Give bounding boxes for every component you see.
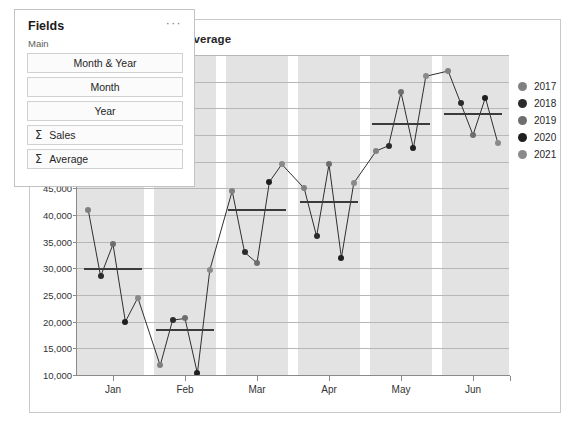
data-point[interactable] <box>470 132 476 138</box>
more-options-icon[interactable]: ··· <box>166 19 182 27</box>
sigma-aggregate-icon: Σ <box>35 152 42 166</box>
field-item-label: Year <box>94 105 115 117</box>
fields-panel[interactable]: Fields ··· Main Month & YearMonthYearΣSa… <box>14 9 195 187</box>
data-point[interactable] <box>326 161 332 167</box>
legend-swatch-icon <box>518 150 527 159</box>
x-axis-line <box>76 375 510 376</box>
data-point[interactable] <box>301 185 307 191</box>
legend-item-2018[interactable]: 2018 <box>518 95 578 112</box>
field-item-label: Average <box>49 153 88 165</box>
data-point[interactable] <box>110 241 116 247</box>
legend-swatch-icon <box>518 82 527 91</box>
x-tick-label-jan: Jan <box>105 384 121 395</box>
data-point[interactable] <box>410 145 416 151</box>
y-tick-mark <box>73 348 77 349</box>
x-tick-mark <box>329 376 330 381</box>
data-point[interactable] <box>423 73 429 79</box>
x-tick-mark <box>510 376 511 381</box>
data-point[interactable] <box>266 179 272 185</box>
series-line-jan <box>88 210 138 322</box>
average-line-jan <box>84 268 142 270</box>
series-line-may <box>376 76 426 151</box>
y-tick-label: 20,000 <box>43 316 72 327</box>
field-item-month-year[interactable]: Month & Year <box>27 53 183 73</box>
y-tick-label: 25,000 <box>43 290 72 301</box>
fields-panel-header: Fields ··· <box>15 10 194 33</box>
series-line-apr <box>304 164 354 257</box>
data-point[interactable] <box>458 100 464 106</box>
average-line-feb <box>156 329 214 331</box>
data-point[interactable] <box>338 255 344 261</box>
data-point[interactable] <box>242 249 248 255</box>
y-tick-mark <box>73 242 77 243</box>
data-point[interactable] <box>254 260 260 266</box>
sigma-aggregate-icon: Σ <box>35 128 42 142</box>
field-item-month[interactable]: Month <box>27 77 183 97</box>
data-point[interactable] <box>398 89 404 95</box>
legend-label: 2020 <box>534 132 556 143</box>
data-point[interactable] <box>279 161 285 167</box>
legend-label: 2017 <box>534 81 556 92</box>
y-tick-mark <box>73 215 77 216</box>
data-point[interactable] <box>482 95 488 101</box>
data-point[interactable] <box>135 295 141 301</box>
data-point[interactable] <box>445 68 451 74</box>
legend-label: 2018 <box>534 98 556 109</box>
y-tick-label: 15,000 <box>43 343 72 354</box>
x-tick-label-mar: Mar <box>248 384 265 395</box>
x-tick-mark <box>257 376 258 381</box>
legend-swatch-icon <box>518 116 527 125</box>
data-point[interactable] <box>122 319 128 325</box>
data-point[interactable] <box>157 362 163 368</box>
field-item-average[interactable]: ΣAverage <box>27 149 183 169</box>
data-point[interactable] <box>229 188 235 194</box>
legend-item-2021[interactable]: 2021 <box>518 146 578 163</box>
y-tick-label: 35,000 <box>43 236 72 247</box>
legend-item-2019[interactable]: 2019 <box>518 112 578 129</box>
data-point[interactable] <box>207 267 213 273</box>
legend[interactable]: 20172018201920202021 <box>518 78 578 163</box>
legend-item-2017[interactable]: 2017 <box>518 78 578 95</box>
series-bridge-segment <box>210 191 232 270</box>
data-point[interactable] <box>170 317 176 323</box>
fields-table-group-label: Main <box>15 33 194 53</box>
data-point[interactable] <box>314 233 320 239</box>
legend-label: 2019 <box>534 115 556 126</box>
x-tick-mark <box>113 376 114 381</box>
data-point[interactable] <box>495 140 501 146</box>
data-point[interactable] <box>373 148 379 154</box>
series-line-mar <box>232 164 282 263</box>
fields-panel-title: Fields <box>28 19 64 33</box>
x-tick-label-jun: Jun <box>465 384 481 395</box>
field-item-sales[interactable]: ΣSales <box>27 125 183 145</box>
y-tick-mark <box>73 375 77 376</box>
field-item-label: Month & Year <box>73 57 136 69</box>
x-tick-label-feb: Feb <box>176 384 193 395</box>
data-point[interactable] <box>85 207 91 213</box>
field-item-label: Sales <box>49 129 75 141</box>
y-tick-label: 10,000 <box>43 370 72 381</box>
field-item-year[interactable]: Year <box>27 101 183 121</box>
y-tick-mark <box>73 188 77 189</box>
data-point[interactable] <box>386 143 392 149</box>
x-tick-mark <box>473 376 474 381</box>
x-tick-label-apr: Apr <box>321 384 337 395</box>
y-tick-mark <box>73 322 77 323</box>
data-point[interactable] <box>351 180 357 186</box>
y-tick-label: 40,000 <box>43 210 72 221</box>
field-item-label: Month <box>90 81 119 93</box>
y-tick-label: 30,000 <box>43 263 72 274</box>
x-tick-label-may: May <box>392 384 411 395</box>
data-point[interactable] <box>182 315 188 321</box>
average-line-apr <box>300 201 358 203</box>
fields-list[interactable]: Month & YearMonthYearΣSalesΣAverage <box>15 53 194 169</box>
series-bridge-segment <box>282 164 304 188</box>
data-point[interactable] <box>98 273 104 279</box>
average-line-may <box>372 123 430 125</box>
x-tick-mark <box>401 376 402 381</box>
legend-item-2020[interactable]: 2020 <box>518 129 578 146</box>
legend-swatch-icon <box>518 133 527 142</box>
average-line-mar <box>228 209 286 211</box>
y-tick-mark <box>73 295 77 296</box>
y-tick-mark <box>73 268 77 269</box>
